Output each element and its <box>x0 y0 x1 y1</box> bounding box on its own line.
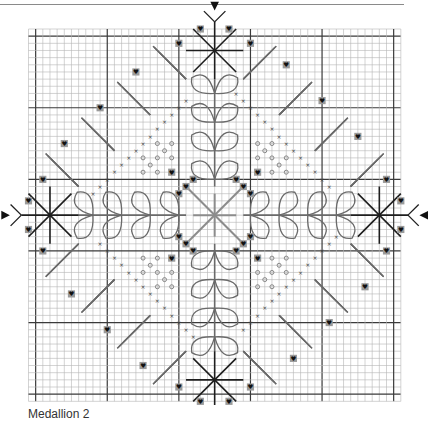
svg-text:×: × <box>176 104 181 111</box>
svg-text:×: × <box>191 333 196 340</box>
svg-text:♥: ♥ <box>183 240 189 248</box>
svg-text:×: × <box>241 326 246 333</box>
svg-text:♥: ♥ <box>398 197 404 205</box>
svg-text:×: × <box>90 190 95 197</box>
svg-text:♥: ♥ <box>319 97 325 105</box>
svg-text:♥: ♥ <box>362 283 368 291</box>
svg-text:×: × <box>141 140 146 147</box>
svg-text:♥: ♥ <box>255 255 261 263</box>
svg-text:♥: ♥ <box>197 398 203 405</box>
svg-text:♥: ♥ <box>248 383 254 391</box>
svg-text:♥: ♥ <box>169 255 175 263</box>
svg-text:×: × <box>234 90 239 97</box>
svg-text:×: × <box>133 276 138 283</box>
svg-text:×: × <box>112 254 117 261</box>
svg-text:×: × <box>262 304 267 311</box>
svg-text:×: × <box>262 118 267 125</box>
svg-text:×: × <box>169 111 174 118</box>
svg-text:♥: ♥ <box>26 226 32 234</box>
svg-text:♥: ♥ <box>140 362 146 370</box>
svg-text:×: × <box>98 240 103 247</box>
svg-text:♥: ♥ <box>226 398 232 405</box>
svg-text:×: × <box>119 161 124 168</box>
svg-text:×: × <box>305 161 310 168</box>
svg-text:×: × <box>155 125 160 132</box>
svg-text:×: × <box>98 183 103 190</box>
svg-text:♥: ♥ <box>248 40 254 48</box>
svg-text:×: × <box>148 133 153 140</box>
svg-text:♥: ♥ <box>233 247 239 255</box>
svg-text:♥: ♥ <box>176 40 182 48</box>
svg-text:♥: ♥ <box>169 169 175 177</box>
svg-text:×: × <box>320 176 325 183</box>
svg-text:×: × <box>269 297 274 304</box>
svg-text:♥: ♥ <box>197 25 203 33</box>
svg-text:♥: ♥ <box>133 68 139 76</box>
svg-text:×: × <box>284 283 289 290</box>
svg-text:×: × <box>248 319 253 326</box>
svg-text:×: × <box>148 290 153 297</box>
svg-text:♥: ♥ <box>398 226 404 234</box>
svg-text:×: × <box>105 176 110 183</box>
svg-text:×: × <box>112 168 117 175</box>
svg-text:×: × <box>334 233 339 240</box>
svg-text:♥: ♥ <box>190 247 196 255</box>
chart-caption: Medallion 2 <box>28 407 89 421</box>
cross-stitch-chart: ♥♥♥♥♥♥♥♥♥♥♥♥♥♥♥♥♥♥♥♥♥♥♥♥♥♥♥♥♥♥♥♥♥♥♥♥♥♥♥♥… <box>0 0 428 405</box>
svg-text:×: × <box>133 147 138 154</box>
svg-text:♥: ♥ <box>176 233 182 241</box>
svg-text:♥: ♥ <box>226 25 232 33</box>
svg-text:×: × <box>298 269 303 276</box>
svg-text:♥: ♥ <box>104 326 110 334</box>
svg-text:×: × <box>291 276 296 283</box>
svg-text:♥: ♥ <box>326 319 332 327</box>
svg-text:♥: ♥ <box>384 247 390 255</box>
svg-text:♥: ♥ <box>240 240 246 248</box>
svg-text:×: × <box>277 133 282 140</box>
svg-text:×: × <box>277 290 282 297</box>
svg-text:♥: ♥ <box>183 183 189 191</box>
svg-text:♥: ♥ <box>384 176 390 184</box>
svg-text:×: × <box>255 111 260 118</box>
svg-text:×: × <box>327 183 332 190</box>
svg-text:×: × <box>255 312 260 319</box>
svg-text:♥: ♥ <box>255 169 261 177</box>
svg-text:×: × <box>248 104 253 111</box>
svg-text:×: × <box>126 269 131 276</box>
svg-text:♥: ♥ <box>176 190 182 198</box>
svg-text:♥: ♥ <box>97 104 103 112</box>
svg-text:×: × <box>126 154 131 161</box>
svg-text:×: × <box>176 319 181 326</box>
svg-text:♥: ♥ <box>190 176 196 184</box>
svg-text:×: × <box>162 118 167 125</box>
svg-text:×: × <box>312 254 317 261</box>
svg-text:×: × <box>291 147 296 154</box>
svg-text:♥: ♥ <box>355 133 361 141</box>
svg-text:♥: ♥ <box>26 197 32 205</box>
svg-text:×: × <box>284 140 289 147</box>
svg-text:×: × <box>305 261 310 268</box>
svg-text:×: × <box>155 297 160 304</box>
svg-text:×: × <box>119 261 124 268</box>
medallion-motif: ♥♥♥♥♥♥♥♥♥♥♥♥♥♥♥♥♥♥♥♥♥♥♥♥♥♥♥♥♥♥♥♥♥♥♥♥♥♥♥♥… <box>1 2 428 405</box>
svg-text:×: × <box>162 304 167 311</box>
svg-text:×: × <box>320 247 325 254</box>
svg-text:♥: ♥ <box>233 176 239 184</box>
svg-text:♥: ♥ <box>291 355 297 363</box>
svg-text:♥: ♥ <box>240 183 246 191</box>
svg-text:♥: ♥ <box>248 190 254 198</box>
svg-text:×: × <box>327 240 332 247</box>
svg-text:♥: ♥ <box>69 290 75 298</box>
svg-text:×: × <box>105 247 110 254</box>
svg-text:×: × <box>269 125 274 132</box>
svg-text:♥: ♥ <box>40 247 46 255</box>
svg-text:×: × <box>169 312 174 319</box>
svg-text:♥: ♥ <box>176 383 182 391</box>
svg-text:♥: ♥ <box>61 140 67 148</box>
svg-text:×: × <box>241 97 246 104</box>
svg-text:♥: ♥ <box>283 61 289 69</box>
svg-text:♥: ♥ <box>248 233 254 241</box>
svg-text:×: × <box>298 154 303 161</box>
svg-text:♥: ♥ <box>40 176 46 184</box>
svg-text:×: × <box>184 326 189 333</box>
